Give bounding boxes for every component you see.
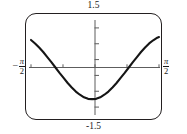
plot-canvas — [26, 14, 163, 121]
pi-over-two-fraction-right: π2 — [163, 57, 169, 75]
y-min-value: -1.5 — [86, 121, 101, 131]
graph-figure: 1.5 −π2 π2 -1.5 — [0, 0, 187, 134]
pi-numerator: π — [163, 57, 169, 66]
x-max-label: π2 — [163, 57, 187, 75]
y-max-value: 1.5 — [88, 0, 100, 10]
two-denominator: 2 — [163, 66, 169, 76]
y-max-label: 1.5 — [0, 1, 187, 11]
minus-sign: − — [13, 61, 19, 71]
x-min-label: −π2 — [1, 57, 25, 75]
calculator-screen — [25, 13, 162, 120]
y-min-label: -1.5 — [0, 122, 187, 132]
